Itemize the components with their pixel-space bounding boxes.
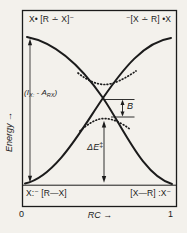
diabatic-curve-ascending (25, 38, 171, 184)
x-tick-0: 0 (19, 210, 24, 220)
plot-frame (23, 11, 177, 207)
state-label-bottom-left: X:⁻ [R—X] (26, 189, 67, 198)
activation-arrowhead-up (102, 121, 106, 128)
double-dagger-symbol: ‡ (99, 141, 103, 148)
gap-subscript-a: RX (47, 92, 55, 98)
y-axis-label: Energy → (4, 112, 14, 152)
gap-arrowhead-up (28, 39, 32, 46)
x-axis-label: RC → (78, 210, 122, 220)
b-arrowhead-down (121, 111, 125, 116)
energy-correlation-diagram: Energy → RC → 0 1 X• [R ∸ X]⁻ ⁻[X ∸ R] •… (0, 0, 187, 233)
resonance-b-label: B (127, 102, 133, 112)
state-label-bottom-right: [X—R] :X⁻ (130, 189, 171, 198)
state-label-top-left: X• [R ∸ X]⁻ (29, 15, 74, 24)
gap-close-paren: ) (55, 88, 58, 97)
b-arrowhead-up (121, 100, 125, 105)
diabatic-curve-descending (27, 37, 172, 184)
x-tick-1: 1 (168, 210, 173, 220)
delta-e-text: ΔE (87, 142, 99, 152)
state-label-top-right: ⁻[X ∸ R] •X (126, 15, 171, 24)
promotion-gap-label: (IX: - ARX) (24, 89, 57, 98)
activation-energy-label: ΔE‡ (87, 141, 103, 153)
activation-arrowhead-down (102, 176, 106, 183)
